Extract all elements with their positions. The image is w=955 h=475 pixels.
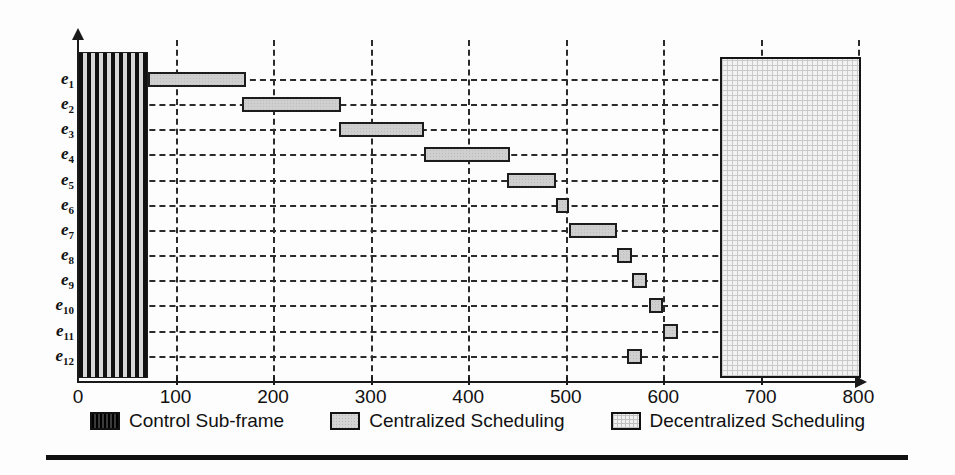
chart-plot-area: e1e2e3e4e5e6e7e8e9e10e11e12 010020030040… <box>0 0 955 400</box>
decentralized-swatch-icon <box>611 412 641 430</box>
x-tick-mark-600 <box>663 377 665 385</box>
legend-item-decentralized-scheduling: Decentralized Scheduling <box>611 410 865 432</box>
x-tick-mark-500 <box>566 377 568 385</box>
chart-legend: Control Sub-frame Centralized Scheduling… <box>0 404 955 438</box>
y-tick-label-e9: e9 <box>28 270 74 290</box>
x-tick-mark-100 <box>176 377 178 385</box>
y-tick-label-e10: e10 <box>28 295 74 315</box>
control-swatch-icon <box>90 412 120 430</box>
x-tick-mark-400 <box>468 377 470 385</box>
gantt-bar-e10 <box>649 298 664 313</box>
legend-label-decentralized-scheduling: Decentralized Scheduling <box>650 410 865 432</box>
legend-item-control-subframe: Control Sub-frame <box>90 410 284 432</box>
y-tick-label-e1: e1 <box>28 69 74 89</box>
gantt-bar-e8 <box>617 248 632 263</box>
y-tick-label-e5: e5 <box>28 170 74 190</box>
legend-label-centralized-scheduling: Centralized Scheduling <box>369 410 564 432</box>
bottom-divider-rule <box>46 455 908 460</box>
y-tick-label-e12: e12 <box>28 346 74 366</box>
y-tick-label-e11: e11 <box>28 321 74 341</box>
control-subframe-block <box>78 52 148 378</box>
x-tick-mark-300 <box>371 377 373 385</box>
gantt-bar-e5 <box>507 173 556 188</box>
legend-item-centralized-scheduling: Centralized Scheduling <box>330 410 564 432</box>
gantt-bar-e4 <box>424 147 510 162</box>
y-tick-label-e6: e6 <box>28 195 74 215</box>
gantt-bar-e2 <box>242 97 342 112</box>
gantt-bar-e3 <box>339 122 424 137</box>
x-tick-mark-200 <box>273 377 275 385</box>
gantt-bar-e7 <box>569 223 618 238</box>
gantt-bar-e6 <box>556 198 569 213</box>
gantt-bar-e12 <box>627 349 642 364</box>
y-tick-label-e3: e3 <box>28 119 74 139</box>
y-tick-label-e2: e2 <box>28 94 74 114</box>
x-tick-mark-800 <box>858 377 860 385</box>
x-tick-mark-700 <box>761 377 763 385</box>
y-tick-label-e8: e8 <box>28 245 74 265</box>
legend-label-control-subframe: Control Sub-frame <box>129 410 284 432</box>
centralized-swatch-icon <box>330 412 360 430</box>
gantt-bar-e11 <box>663 324 678 339</box>
y-tick-label-e7: e7 <box>28 220 74 240</box>
y-axis-arrow-icon <box>72 28 84 40</box>
decentralized-scheduling-block <box>720 57 861 378</box>
gantt-figure: e1e2e3e4e5e6e7e8e9e10e11e12 010020030040… <box>0 0 955 475</box>
y-tick-label-e4: e4 <box>28 144 74 164</box>
gantt-bar-e1 <box>148 72 246 87</box>
gantt-bar-e9 <box>632 273 647 288</box>
